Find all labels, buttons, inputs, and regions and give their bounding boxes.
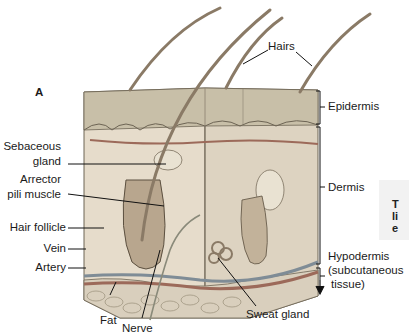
- label-vein: Vein: [44, 242, 66, 255]
- label-dermis: Dermis: [328, 181, 364, 194]
- label-sweat-gland: Sweat gland: [246, 308, 309, 321]
- label-sebaceous-2: gland: [33, 155, 61, 168]
- caption-line-3: e: [392, 222, 398, 235]
- label-hypodermis-1: Hypodermis: [328, 250, 389, 263]
- label-epidermis: Epidermis: [328, 100, 379, 113]
- label-nerve: Nerve: [122, 322, 153, 335]
- label-hair-follicle: Hair follicle: [10, 221, 66, 234]
- panel-label: A: [35, 86, 43, 99]
- label-arrector-1: Arrector: [20, 173, 61, 186]
- label-sebaceous-1: Sebaceous: [3, 140, 61, 153]
- label-hypodermis-2: (subcutaneous: [328, 264, 403, 277]
- epidermis-layer: [84, 88, 318, 130]
- label-arrector-2: pili muscle: [7, 188, 61, 201]
- label-hypodermis-3: tissue): [331, 278, 365, 291]
- label-fat: Fat: [100, 314, 117, 327]
- label-artery: Artery: [35, 261, 66, 274]
- label-hairs: Hairs: [268, 40, 295, 53]
